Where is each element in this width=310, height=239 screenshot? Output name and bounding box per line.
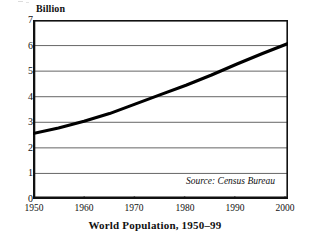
world-population-chart: Billion 7 6 5 4 3 2 1 0 [0, 0, 310, 239]
y-tick-label-7: 7 [11, 15, 33, 25]
y-tick-label-3: 3 [11, 117, 33, 127]
plot-svg [33, 20, 288, 199]
x-tick-label-1960: 1960 [64, 203, 104, 214]
y-axis-unit-label: Billion [36, 3, 65, 15]
y-tick-label-2: 2 [11, 143, 33, 153]
y-tick-label-1: 1 [11, 168, 33, 178]
y-tick-label-4: 4 [11, 92, 33, 102]
plot-frame [34, 21, 287, 198]
scan-artifact [18, 1, 23, 2]
y-tick-label-5: 5 [11, 66, 33, 76]
plot-area [33, 20, 288, 199]
source-note: Source: Census Bureau [186, 176, 275, 187]
x-tick-label-1980: 1980 [165, 203, 205, 214]
x-tick-label-1970: 1970 [114, 203, 154, 214]
data-line-world-population [33, 44, 288, 134]
x-tick-label-1950: 1950 [14, 203, 54, 214]
scan-artifact [26, 2, 29, 3]
chart-caption: World Population, 1950–99 [0, 219, 310, 232]
x-tick-label-1990: 1990 [215, 203, 255, 214]
y-tick-label-6: 6 [11, 41, 33, 51]
x-tick-label-2000: 2000 [265, 203, 305, 214]
gridlines [33, 46, 288, 174]
